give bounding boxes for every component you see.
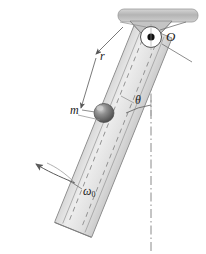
angle-label: θ bbox=[135, 94, 141, 106]
mechanics-figure: O r m θ ω0 bbox=[0, 0, 206, 254]
mass-label: m bbox=[70, 104, 79, 116]
r-dim-segment-lower bbox=[81, 58, 96, 108]
omega-subscript: 0 bbox=[91, 190, 95, 199]
ceiling-support-bar bbox=[118, 9, 198, 22]
angular-velocity-label: ω0 bbox=[83, 185, 95, 197]
spin-arrow-arc bbox=[36, 164, 75, 183]
m-leader-line bbox=[82, 110, 95, 112]
radius-label: r bbox=[100, 50, 105, 62]
slotted-rod bbox=[55, 23, 173, 237]
rod-body bbox=[55, 23, 173, 237]
mass-sphere-highlight bbox=[97, 105, 104, 110]
ceiling-bar bbox=[118, 9, 198, 22]
pivot-label: O bbox=[166, 30, 175, 43]
mass-leader bbox=[82, 110, 95, 112]
